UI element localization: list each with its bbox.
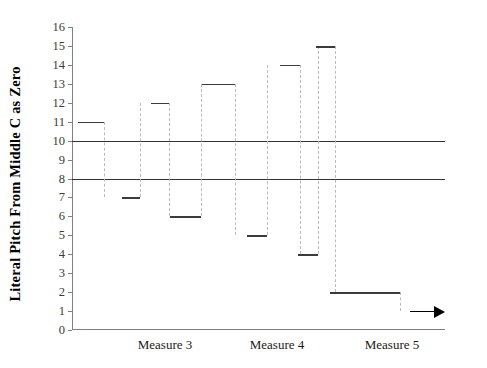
note-segment <box>170 216 201 218</box>
y-tick <box>68 216 72 217</box>
note-connector <box>318 46 319 254</box>
y-tick-label: 2 <box>59 285 65 300</box>
x-axis-label-measure-4: Measure 4 <box>250 337 305 353</box>
y-tick-label: 13 <box>53 76 66 91</box>
continuation-arrow-shaft <box>410 311 434 312</box>
reference-line-8 <box>72 179 445 180</box>
note-connector <box>201 84 202 217</box>
x-axis-line <box>72 329 445 330</box>
note-connector <box>235 84 236 236</box>
y-tick <box>68 103 72 104</box>
y-tick <box>68 235 72 236</box>
note-segment <box>316 46 335 48</box>
note-connector <box>267 65 268 235</box>
plot-area: 012345678910111213141516 <box>72 27 445 330</box>
y-tick-label: 1 <box>59 304 65 319</box>
x-axis-label-measure-3: Measure 3 <box>138 337 193 353</box>
note-segment <box>122 197 140 199</box>
y-tick <box>68 160 72 161</box>
y-tick <box>68 46 72 47</box>
y-tick <box>68 292 72 293</box>
y-tick <box>68 65 72 66</box>
continuation-arrow-head <box>434 306 445 318</box>
y-tick <box>68 27 72 28</box>
y-tick <box>68 330 72 331</box>
note-connector <box>169 103 170 217</box>
y-tick-label: 4 <box>59 247 65 262</box>
note-connector <box>104 122 105 198</box>
y-tick <box>68 311 72 312</box>
y-tick-label: 5 <box>59 228 65 243</box>
note-segment <box>202 84 235 86</box>
y-tick-label: 3 <box>59 266 65 281</box>
y-tick-label: 7 <box>59 190 65 205</box>
y-tick-label: 14 <box>53 57 66 72</box>
note-segment <box>247 235 267 237</box>
note-connector <box>140 103 141 198</box>
y-tick-label: 8 <box>59 171 65 186</box>
y-tick-label: 16 <box>53 20 66 35</box>
y-tick-label: 9 <box>59 152 65 167</box>
note-segment <box>78 122 104 124</box>
note-connector <box>400 292 401 311</box>
y-tick <box>68 197 72 198</box>
note-segment <box>280 65 300 67</box>
y-tick <box>68 122 72 123</box>
note-segment <box>151 103 169 105</box>
reference-line-10 <box>72 141 445 142</box>
y-tick <box>68 273 72 274</box>
y-tick-label: 10 <box>53 133 66 148</box>
pitch-contour-chart: Literal Pitch From Middle C as Zero 0123… <box>0 0 487 368</box>
note-connector <box>335 46 336 292</box>
note-segment <box>330 292 400 294</box>
y-tick-label: 6 <box>59 209 65 224</box>
y-tick <box>68 84 72 85</box>
y-tick-label: 0 <box>59 323 65 338</box>
note-connector <box>300 65 301 254</box>
y-tick <box>68 254 72 255</box>
y-tick-label: 15 <box>53 38 66 53</box>
y-tick-label: 11 <box>53 114 65 129</box>
note-segment <box>298 254 318 256</box>
y-tick-label: 12 <box>53 95 66 110</box>
y-axis-title: Literal Pitch From Middle C as Zero <box>0 0 30 368</box>
x-axis-label-measure-5: Measure 5 <box>365 337 420 353</box>
